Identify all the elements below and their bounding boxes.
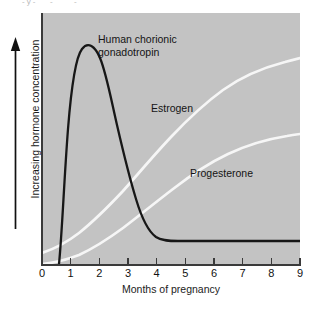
x-axis-tick [70, 258, 71, 264]
x-axis-tick [185, 258, 186, 264]
x-axis-tick [299, 258, 300, 264]
x-axis-tick [271, 258, 272, 264]
x-axis-tick-label: 2 [90, 267, 108, 279]
x-axis-tick-label: 5 [176, 267, 194, 279]
series-label-estrogen: Estrogen [151, 102, 193, 115]
x-axis-tick-label: 1 [62, 267, 80, 279]
progesterone-curve [42, 134, 300, 264]
hormone-concentration-chart: Increasing hormone concentration Human c… [0, 0, 324, 313]
hcg-curve [59, 45, 300, 264]
x-axis-tick [41, 258, 42, 264]
x-axis-tick-label: 0 [33, 267, 51, 279]
series-label-hcg: Human chorionic gonadotropin [98, 33, 177, 58]
x-axis-rule [41, 264, 301, 266]
up-arrow-icon [9, 37, 22, 229]
x-axis-tick-label: 9 [291, 267, 309, 279]
x-axis-tick [99, 258, 100, 264]
x-axis-tick [127, 258, 128, 264]
plot-area: Human chorionic gonadotropin Estrogen Pr… [42, 13, 300, 264]
estrogen-curve [42, 58, 300, 253]
series-label-progesterone: Progesterone [190, 167, 253, 180]
y-axis-rule [41, 13, 43, 265]
x-axis-tick [156, 258, 157, 264]
x-axis-tick-label: 3 [119, 267, 137, 279]
x-axis-tick [242, 258, 243, 264]
x-axis-tick-label: 7 [234, 267, 252, 279]
x-axis-tick-label: 6 [205, 267, 223, 279]
x-axis-tick [213, 258, 214, 264]
x-axis-tick-label: 8 [262, 267, 280, 279]
y-axis: Increasing hormone concentration [0, 13, 42, 264]
x-axis-label: Months of pregnancy [42, 283, 300, 295]
x-axis-tick-label: 4 [148, 267, 166, 279]
